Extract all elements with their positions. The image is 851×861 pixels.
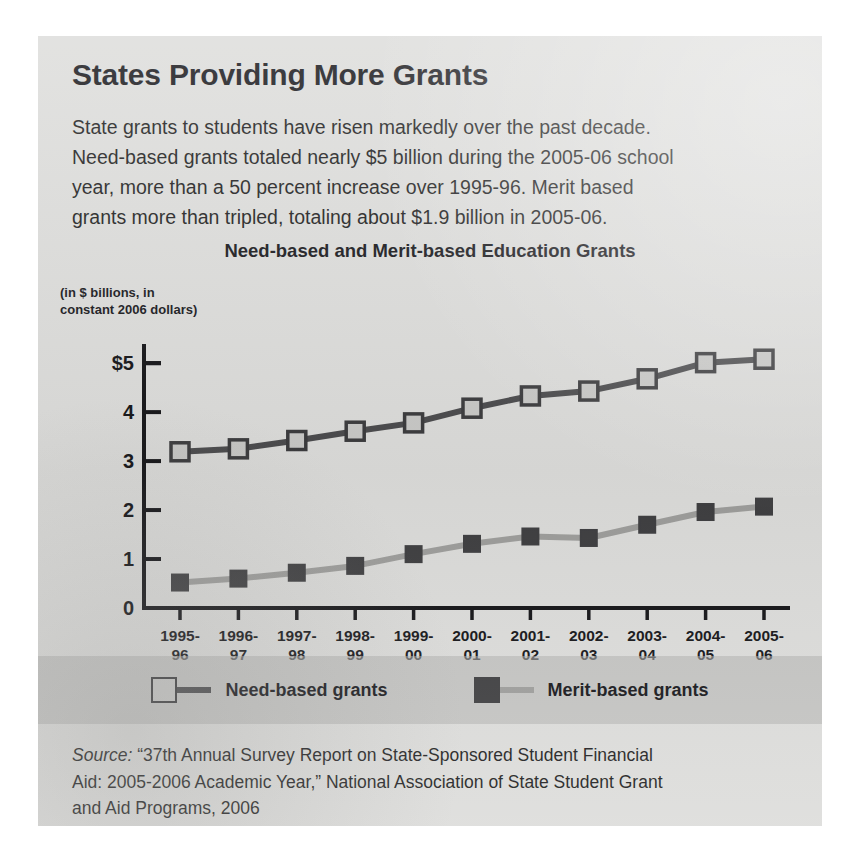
legend-label-need-based: Need-based grants bbox=[225, 680, 387, 701]
need-based-marker-icon bbox=[151, 677, 177, 703]
y-axis-tick-label: 3 bbox=[98, 450, 134, 473]
need-based-line-icon bbox=[177, 687, 211, 693]
merit-based-line-icon bbox=[500, 687, 534, 693]
y-axis-tick-label: 1 bbox=[98, 548, 134, 571]
legend-label-merit-based: Merit-based grants bbox=[548, 680, 709, 701]
source-label: Source: bbox=[72, 745, 132, 765]
source-note: Source: “37th Annual Survey Report on St… bbox=[72, 742, 792, 822]
merit-based-marker-icon bbox=[474, 677, 500, 703]
y-axis-tick-label: 2 bbox=[98, 499, 134, 522]
source-line: Aid: 2005-2006 Academic Year,” National … bbox=[72, 769, 792, 796]
source-line: and Aid Programs, 2006 bbox=[72, 795, 792, 822]
y-axis-tick-label: $5 bbox=[98, 352, 134, 375]
chart-legend: Need-based grants Merit-based grants bbox=[38, 666, 822, 714]
y-axis-tick-label: 4 bbox=[98, 401, 134, 424]
article-clipping-panel: States Providing More Grants State grant… bbox=[38, 36, 822, 826]
legend-item-merit-based[interactable]: Merit-based grants bbox=[474, 677, 709, 703]
legend-item-need-based[interactable]: Need-based grants bbox=[151, 677, 387, 703]
y-axis-tick-label: 0 bbox=[98, 597, 134, 620]
source-line: Source: “37th Annual Survey Report on St… bbox=[72, 742, 792, 769]
source-text: “37th Annual Survey Report on State-Spon… bbox=[137, 745, 653, 765]
